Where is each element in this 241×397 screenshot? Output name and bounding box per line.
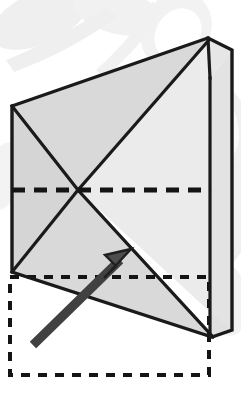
flap-tip-top-edge (208, 38, 210, 78)
origami-fold-diagram (0, 0, 241, 397)
figure-container (0, 0, 241, 397)
face-right-lower (210, 50, 232, 337)
